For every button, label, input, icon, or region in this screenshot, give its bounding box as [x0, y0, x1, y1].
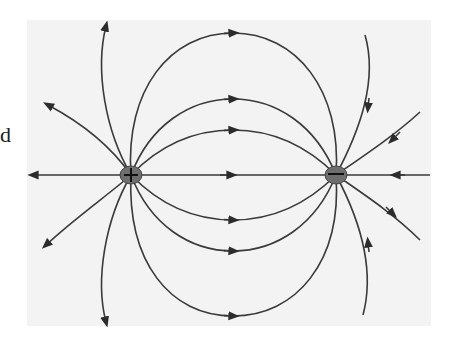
negative-charge — [325, 166, 347, 184]
field-line-arc-upper-inner — [131, 130, 336, 175]
arrow-in-bottom — [368, 242, 369, 252]
field-line-arc-lower-inner — [131, 175, 336, 220]
arrow-in-top — [368, 98, 369, 108]
field-line-arc-upper-middle — [131, 99, 336, 175]
field-line-in-bottom — [336, 175, 367, 315]
field-line-in-upper-right — [336, 112, 420, 175]
field-lines — [33, 26, 430, 322]
field-line-out-lower-left — [46, 175, 131, 245]
field-line-out-up — [102, 26, 131, 175]
field-line-arc-lower-middle — [131, 175, 336, 251]
field-line-in-top — [336, 35, 369, 175]
dipole-field-diagram — [0, 0, 449, 338]
field-line-arc-upper-outer — [130, 33, 336, 175]
field-line-out-down — [102, 175, 131, 322]
field-line-out-upper-left — [48, 105, 131, 175]
positive-charge — [120, 166, 142, 184]
field-line-arc-lower-outer — [131, 175, 337, 316]
field-line-in-lower-right — [336, 175, 420, 240]
